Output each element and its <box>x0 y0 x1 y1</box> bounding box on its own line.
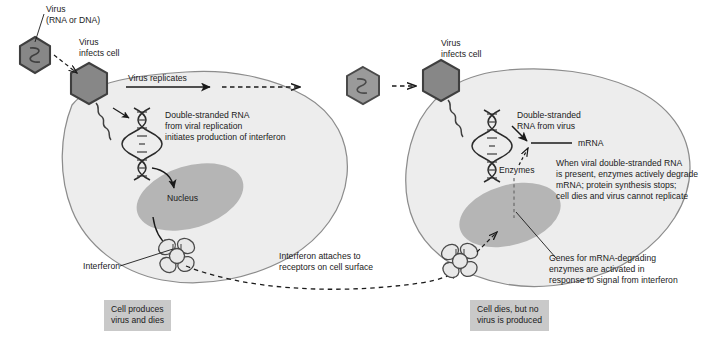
right-dsrna-label-line2: RNA from virus <box>517 121 575 131</box>
middle-virus-icon-group <box>347 67 379 104</box>
left-dsrna-label-line3: initiates production of interferon <box>165 132 286 142</box>
hexagon-virus-icon <box>423 60 459 101</box>
right-genes-line2: enzymes are activated in <box>549 264 645 274</box>
left-dsrna-label-line2: from viral replication <box>165 121 242 131</box>
mrna-label: mRNA <box>578 138 603 148</box>
left-outcome-line2: virus and dies <box>111 315 164 325</box>
right-genes-line1: Genes for mRNA-degrading <box>549 253 656 263</box>
left-virus-infects-label-line2: infects cell <box>79 48 119 58</box>
left-outcome-box: Cell producesvirus and dies <box>104 300 171 331</box>
virus-label-leader-line <box>35 14 44 42</box>
right-explain-line2: is present, enzymes actively degrade <box>556 169 698 179</box>
interferon-attaches-line1: Interferon attaches to <box>279 251 361 261</box>
virus-replicates-label: Virus replicates <box>128 73 187 83</box>
right-virus-infects-label-line1: Virus <box>441 38 461 48</box>
diagram-canvas: Virus (RNA or DNA) Virus infects cell Vi… <box>0 0 717 338</box>
left-nucleus-label: Nucleus <box>167 193 198 203</box>
right-outcome-line1: Cell dies, but no <box>477 304 539 314</box>
right-explain-line4: cell dies and virus cannot replicate <box>556 191 688 201</box>
right-explain-line3: mRNA; protein synthesis stops; <box>556 180 676 190</box>
left-outcome-line1: Cell produces <box>111 304 164 314</box>
dashed-arrow-icon <box>54 55 77 73</box>
right-outcome-box: Cell dies, but novirus is produced <box>470 300 549 331</box>
hexagon-virus-icon <box>71 63 107 104</box>
right-outcome-line2: virus is produced <box>477 315 542 325</box>
right-genes-line3: response to signal from interferon <box>549 275 678 285</box>
right-explain-line1: When viral double-stranded RNA <box>556 158 682 168</box>
interferon-attaches-line2: receptors on cell surface <box>279 262 373 272</box>
enzymes-label: Enzymes <box>499 165 534 175</box>
virus-label-line2: (RNA or DNA) <box>46 15 100 25</box>
left-dsrna-label-line1: Double-stranded RNA <box>165 110 249 120</box>
left-virus-infects-label-line1: Virus <box>79 37 99 47</box>
interferon-label: Interferon <box>83 261 120 271</box>
right-dsrna-label-line1: Double-stranded <box>517 110 581 120</box>
virus-label-line1: Virus <box>46 4 66 14</box>
right-virus-infects-label-line2: infects cell <box>441 49 481 59</box>
